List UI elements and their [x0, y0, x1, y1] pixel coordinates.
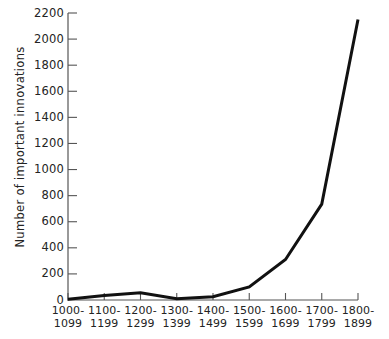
x-axis-tick-label-line: 1800-	[333, 305, 383, 318]
line-chart: Number of important innovations 02004006…	[0, 0, 389, 339]
x-axis-tick-label-line: 1899	[333, 318, 383, 331]
x-axis-tick-labels: 1000-10991100-11991200-12991300-13991400…	[0, 0, 389, 339]
x-axis-tick-label: 1800-1899	[333, 305, 383, 330]
